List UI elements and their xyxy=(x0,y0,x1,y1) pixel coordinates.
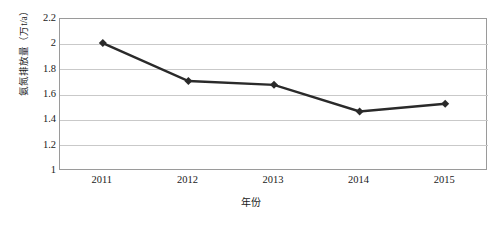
y-tick-label: 2.2 xyxy=(30,13,56,23)
x-axis-tick-labels: 20112012201320142015 xyxy=(59,174,487,190)
y-tick-label: 1.4 xyxy=(30,114,56,124)
y-tick-label: 1 xyxy=(30,165,56,175)
y-tick-label: 1.2 xyxy=(30,140,56,150)
x-tick-label: 2012 xyxy=(157,174,217,186)
line-chart: 氨氮排放量（万t/a） 11.21.41.61.822.2 2011201220… xyxy=(0,0,501,225)
x-axis-title: 年份 xyxy=(0,196,501,210)
plot-svg xyxy=(60,19,488,171)
plot-area xyxy=(59,18,487,170)
x-tick-label: 2014 xyxy=(329,174,389,186)
x-tick-label: 2011 xyxy=(72,174,132,186)
data-point-marker xyxy=(356,107,364,115)
x-tick-label: 2015 xyxy=(414,174,474,186)
y-tick-label: 1.8 xyxy=(30,64,56,74)
data-series-layer xyxy=(99,39,449,115)
y-axis-tick-labels: 11.21.41.61.822.2 xyxy=(28,0,56,225)
data-point-marker xyxy=(441,100,449,108)
y-tick-label: 1.6 xyxy=(30,89,56,99)
y-tick-label: 2 xyxy=(30,38,56,48)
gridlines xyxy=(60,44,488,145)
series-line xyxy=(103,43,445,111)
data-point-marker xyxy=(270,81,278,89)
x-tick-label: 2013 xyxy=(243,174,303,186)
data-point-marker xyxy=(184,77,192,85)
data-point-marker xyxy=(99,39,107,47)
